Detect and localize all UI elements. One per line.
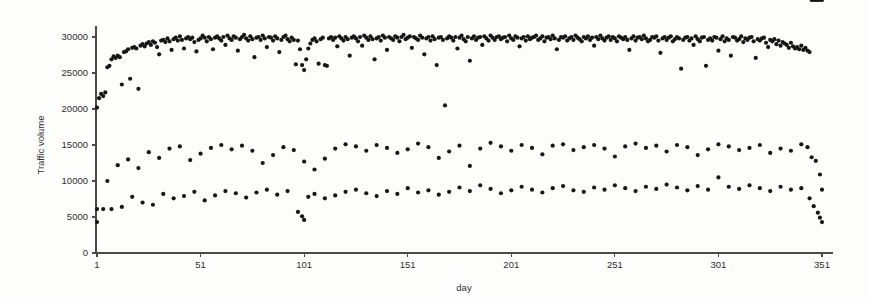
data-point <box>325 64 329 68</box>
data-point <box>810 155 814 159</box>
data-point <box>710 39 714 43</box>
data-point <box>281 145 285 149</box>
y-tick-label: 25000 <box>62 67 88 78</box>
data-point <box>130 195 134 199</box>
data-point <box>665 149 669 153</box>
x-tick-label: 201 <box>503 259 519 270</box>
data-point <box>654 187 658 191</box>
data-point <box>540 190 544 194</box>
data-point <box>385 48 389 52</box>
data-point <box>428 39 432 43</box>
data-point <box>530 188 534 192</box>
data-point <box>292 148 296 152</box>
data-point <box>236 49 240 53</box>
data-point <box>126 47 130 51</box>
data-point <box>323 196 327 200</box>
data-point <box>435 63 439 67</box>
data-point <box>167 147 171 151</box>
data-point <box>296 210 300 214</box>
data-point <box>762 36 766 40</box>
data-point <box>246 39 250 43</box>
series-upper-band <box>95 0 824 110</box>
data-point <box>188 158 192 162</box>
data-point <box>714 36 718 40</box>
data-point <box>230 147 234 151</box>
data-point <box>275 36 279 40</box>
data-point <box>776 39 780 43</box>
data-point <box>805 145 809 149</box>
data-point <box>551 144 555 148</box>
data-point <box>375 143 379 147</box>
y-tick-label: 5000 <box>67 211 88 222</box>
data-point <box>696 184 700 188</box>
data-point <box>437 193 441 197</box>
data-point <box>505 39 509 43</box>
data-point <box>447 190 451 194</box>
x-axis-title: day <box>456 282 472 293</box>
data-point <box>95 207 99 211</box>
data-point <box>426 145 430 149</box>
data-point <box>774 42 778 46</box>
data-point <box>271 153 275 157</box>
data-point <box>379 39 383 43</box>
data-point <box>178 34 182 38</box>
data-point <box>230 38 234 42</box>
data-point <box>540 152 544 156</box>
data-point <box>401 33 405 37</box>
data-point <box>397 39 401 43</box>
data-point <box>702 35 706 39</box>
data-point <box>298 47 302 51</box>
data-point <box>203 36 207 40</box>
data-point <box>391 38 395 42</box>
data-point <box>157 52 161 56</box>
data-point <box>416 38 420 42</box>
data-point <box>283 33 287 37</box>
data-point <box>685 145 689 149</box>
data-point <box>314 39 318 43</box>
data-point <box>240 144 244 148</box>
data-point <box>797 47 801 51</box>
data-point <box>97 96 101 100</box>
data-point <box>364 191 368 195</box>
data-point <box>105 179 109 183</box>
data-point <box>375 194 379 198</box>
data-point <box>522 35 526 39</box>
data-point <box>592 185 596 189</box>
data-point <box>716 175 720 179</box>
data-point <box>372 57 376 61</box>
data-point <box>640 37 644 41</box>
data-point <box>308 41 312 45</box>
data-point <box>644 146 648 150</box>
data-point <box>488 187 492 191</box>
data-point <box>472 34 476 38</box>
data-point <box>155 45 159 49</box>
y-axis-title: Traffic volume <box>35 115 46 174</box>
data-point <box>540 34 544 38</box>
data-point <box>209 37 213 41</box>
data-point <box>101 207 105 211</box>
data-point <box>358 35 362 39</box>
x-tick-label: 51 <box>195 259 206 270</box>
data-point <box>354 188 358 192</box>
data-point <box>656 39 660 43</box>
data-point <box>140 201 144 205</box>
data-point <box>416 141 420 145</box>
data-point <box>302 159 306 163</box>
data-point <box>818 216 822 220</box>
data-point <box>644 185 648 189</box>
data-point <box>416 190 420 194</box>
data-point <box>354 144 358 148</box>
data-point <box>451 39 455 43</box>
data-point <box>364 149 368 153</box>
data-point <box>285 189 289 193</box>
data-point <box>698 39 702 43</box>
data-point <box>778 44 782 48</box>
data-point <box>685 188 689 192</box>
data-point <box>443 103 447 107</box>
data-point <box>296 39 300 43</box>
data-point <box>335 44 339 48</box>
data-point <box>478 147 482 151</box>
data-point <box>466 35 470 39</box>
data-point <box>406 186 410 190</box>
data-point <box>383 36 387 40</box>
